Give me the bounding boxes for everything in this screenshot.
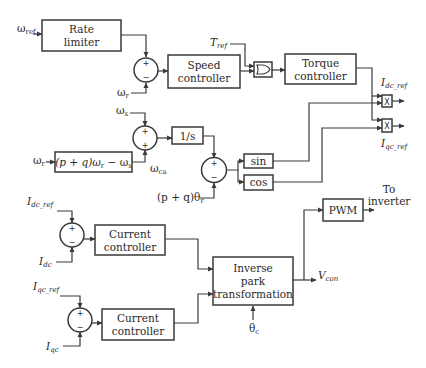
torque-output-line	[356, 68, 382, 120]
current-d-to-park-line	[165, 239, 213, 269]
rate-limiter-output-line	[121, 35, 146, 57]
svg-text:Iqc: Iqc	[45, 340, 59, 354]
svg-text:ωs: ωs	[116, 104, 129, 118]
omega-ca-label: ωca	[150, 162, 167, 176]
svg-text:1/s: 1/s	[180, 130, 196, 142]
pwm-block: PWM	[323, 199, 363, 221]
iqc-label: Iqc	[45, 340, 59, 354]
svg-text:Vcon: Vcon	[318, 269, 339, 283]
sum-id-junction: + −	[60, 223, 84, 247]
idc-feedback-line	[56, 247, 72, 262]
control-block-diagram: ωref Rate limiter + − ωr Speed controlle…	[0, 0, 426, 368]
slip-calc-output-line	[132, 150, 145, 162]
v-con-label: Vcon	[318, 269, 339, 283]
svg-text:Speed: Speed	[187, 59, 220, 71]
svg-text:limiter: limiter	[64, 36, 100, 48]
svg-text:controller: controller	[112, 325, 165, 337]
svg-text:−: −	[77, 323, 84, 332]
svg-text:ωr: ωr	[33, 154, 46, 168]
svg-text:Rate: Rate	[69, 23, 94, 35]
cos-output-line	[273, 128, 382, 182]
svg-text:PWM: PWM	[329, 204, 358, 216]
speed-controller-block: Speed controller	[168, 55, 240, 88]
cos-block: cos	[244, 175, 273, 190]
current-controller-d-block: Current controller	[95, 225, 165, 255]
sum-iq-junction: + −	[68, 308, 92, 332]
idc-ref-input-label: Idc_ref	[26, 195, 55, 209]
svg-text:Inverse: Inverse	[233, 262, 273, 274]
slip-calculation-block: (p + q)ωr − ωs	[55, 152, 132, 172]
svg-text:park: park	[241, 275, 266, 287]
integrator-output-line	[203, 136, 214, 158]
svg-text:Idc_ref: Idc_ref	[26, 195, 55, 209]
iqc-ref-line	[60, 296, 80, 308]
svg-text:controller: controller	[104, 241, 157, 253]
t-ref-label: Tref	[210, 36, 229, 50]
multiplier-q-block: X	[382, 119, 392, 132]
omega-r-feedback-line	[131, 83, 146, 93]
selector-switch-block	[254, 62, 272, 77]
sum-speed-junction: + −	[134, 58, 158, 82]
current-controller-q-block: Current controller	[102, 309, 174, 340]
svg-text:To: To	[383, 183, 396, 195]
sin-block: sin	[244, 154, 273, 168]
svg-text:ωca: ωca	[150, 162, 167, 176]
sum-slip-junction: + +	[133, 126, 157, 150]
idc-label: Idc	[38, 255, 52, 269]
svg-text:+: +	[69, 224, 76, 233]
theta-r-line	[200, 183, 214, 198]
svg-text:controller: controller	[294, 70, 347, 82]
theta-r-label: (p + q)θr	[157, 191, 204, 205]
idc-ref-line	[57, 211, 72, 223]
svg-text:Idc: Idc	[38, 255, 52, 269]
svg-text:−: −	[143, 73, 150, 82]
svg-text:Iqc_ref: Iqc_ref	[380, 137, 409, 151]
omega-r-label-1: ωr	[117, 86, 130, 100]
to-inverter-label: To inverter	[368, 183, 412, 207]
svg-text:+: +	[142, 141, 149, 150]
iqc-feedback-line	[63, 332, 80, 346]
angle-to-sin-line	[226, 161, 244, 170]
iqc-ref-input-label: Iqc_ref	[32, 280, 61, 294]
svg-text:(p + q)ωr − ωs: (p + q)ωr − ωs	[55, 156, 132, 170]
svg-text:X: X	[384, 122, 390, 131]
svg-text:Tref: Tref	[210, 36, 229, 50]
svg-text:sin: sin	[251, 155, 267, 167]
svg-text:−: −	[211, 173, 218, 182]
current-q-to-park-line	[174, 294, 213, 323]
theta-c-label: θc	[249, 322, 259, 336]
svg-text:+: +	[77, 309, 84, 318]
svg-text:ωr: ωr	[117, 86, 130, 100]
iqc-ref-output-label: Iqc_ref	[380, 137, 409, 151]
svg-text:Idc_ref: Idc_ref	[380, 76, 409, 90]
sum-angle-junction: + −	[202, 158, 227, 183]
omega-r-label-2: ωr	[33, 154, 46, 168]
idc-ref-output-label: Idc_ref	[380, 76, 409, 90]
svg-text:−: −	[69, 238, 76, 247]
svg-text:+: +	[211, 159, 218, 168]
multiplier-d-block: X	[382, 95, 392, 107]
svg-text:controller: controller	[178, 72, 231, 84]
svg-text:+: +	[142, 127, 149, 136]
svg-text:cos: cos	[250, 176, 268, 188]
rate-limiter-block: Rate limiter	[42, 20, 121, 51]
svg-text:θc: θc	[249, 322, 259, 336]
angle-to-cos-line	[238, 170, 244, 182]
svg-text:Torque: Torque	[302, 57, 339, 69]
svg-text:Current: Current	[117, 312, 160, 324]
integrator-block: 1/s	[172, 127, 203, 144]
torque-controller-block: Torque controller	[285, 54, 356, 84]
svg-text:X: X	[384, 98, 390, 107]
omega-s-label: ωs	[116, 104, 129, 118]
sin-output-line	[273, 103, 382, 161]
omega-s-line	[130, 113, 145, 126]
svg-text:Current: Current	[109, 228, 152, 240]
svg-text:inverter: inverter	[368, 195, 412, 207]
svg-text:transformation: transformation	[213, 288, 293, 300]
svg-text:Iqc_ref: Iqc_ref	[32, 280, 61, 294]
inverse-park-block: Inverse park transformation	[213, 257, 293, 305]
svg-text:+: +	[143, 59, 150, 68]
svg-text:(p + q)θr: (p + q)θr	[157, 191, 204, 205]
